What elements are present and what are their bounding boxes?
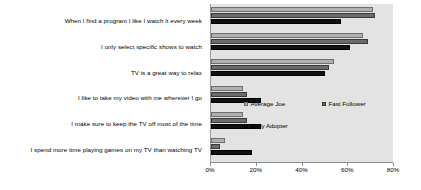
bar (211, 92, 247, 97)
bar (211, 59, 334, 64)
x-tick-label: 60% (335, 166, 359, 174)
legend-swatch-icon (244, 102, 248, 106)
legend-item-average-joe: Average Joe (244, 100, 285, 107)
category-axis-labels: When I find a program I like I watch it … (0, 8, 206, 162)
bar (211, 39, 368, 44)
legend-item-fast-follower: Fast Follower (322, 100, 366, 107)
chart-legend: Average Joe Fast Follower Early Adopter (244, 100, 394, 140)
bar (211, 144, 220, 149)
legend-label: Early Adopter (251, 122, 288, 129)
bar (211, 71, 325, 76)
x-tick-label: 0% (198, 166, 222, 174)
category-label: TV is a great way to relax (0, 69, 202, 76)
bar (211, 86, 243, 91)
bar (211, 118, 247, 123)
legend-item-early-adopter: Early Adopter (244, 122, 288, 129)
category-label: I make sure to keep the TV off most of t… (0, 120, 202, 127)
bar (211, 138, 225, 143)
bar (211, 112, 243, 117)
bar (211, 7, 373, 12)
category-label: I only select specific shows to watch (0, 43, 202, 50)
legend-swatch-icon (244, 124, 248, 128)
legend-swatch-icon (322, 102, 326, 106)
bar (211, 150, 252, 155)
x-tick-label: 80% (381, 166, 405, 174)
bar (211, 13, 375, 18)
legend-label: Average Joe (251, 100, 286, 107)
category-label: I like to take my video with me wherever… (0, 94, 202, 101)
x-tick-label: 20% (244, 166, 268, 174)
bar-group (211, 6, 393, 32)
bar (211, 33, 363, 38)
bar (211, 45, 350, 50)
bar-group (211, 32, 393, 58)
bar-group (211, 137, 393, 163)
bar (211, 65, 329, 70)
legend-label: Fast Follower (329, 100, 366, 107)
bar-group (211, 58, 393, 84)
category-label: I spend more time playing games on my TV… (0, 146, 202, 153)
category-label: When I find a program I like I watch it … (0, 17, 202, 24)
x-tick-label: 40% (290, 166, 314, 174)
bar (211, 19, 341, 24)
bar-chart: When I find a program I like I watch it … (0, 0, 421, 190)
